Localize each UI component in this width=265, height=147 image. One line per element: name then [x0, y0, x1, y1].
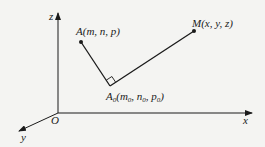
z-axis-label: z — [48, 10, 54, 22]
x-axis-label: x — [242, 114, 248, 126]
diagram-canvas: z x y O A(m, n, p) M(x, y, z) A0(m0, n0,… — [0, 0, 265, 147]
segment-A-A0 — [81, 42, 110, 86]
origin-label: O — [51, 114, 59, 126]
segment-A0-M — [110, 31, 194, 86]
y-axis-label: y — [20, 131, 26, 143]
point-A — [79, 40, 83, 44]
point-M — [192, 29, 196, 33]
point-A-label: A(m, n, p) — [75, 25, 120, 38]
point-M-label: M(x, y, z) — [191, 17, 233, 30]
point-A0-label: A0(m0, n0, p0) — [105, 90, 164, 104]
